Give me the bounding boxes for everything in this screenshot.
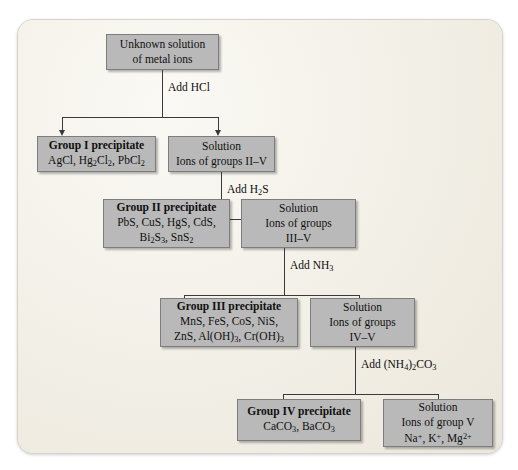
diagram-panel: Unknown solution of metal ions Add HCl G…: [17, 19, 503, 454]
group-2-header: Group II precipitate: [117, 200, 217, 215]
node-group-2-precipitate: Group II precipitate PbS, CuS, HgS, CdS,…: [103, 199, 230, 248]
solution-3-5-line-2: Ions of groups: [265, 216, 331, 231]
solution-5-line-2: Ions of group V: [402, 415, 475, 430]
solution-5-line-3: Na+, K+, Mg2+: [404, 431, 471, 446]
node-group-4-precipitate: Group IV precipitate CaCO3, BaCO3: [237, 399, 361, 441]
node-group-1-precipitate: Group I precipitate AgCl, Hg2Cl2, PbCl2: [37, 136, 156, 172]
reagent-step-1: Add HCl: [168, 82, 210, 94]
group-2-species-line-1: PbS, CuS, HgS, CdS,: [117, 215, 216, 230]
group-1-species: AgCl, Hg2Cl2, PbCl2: [48, 153, 145, 170]
connector-sol35-down: [284, 248, 285, 295]
node-solution-3-5: Solution Ions of groups III–V: [241, 199, 356, 248]
group-1-header: Group I precipitate: [49, 138, 144, 153]
group-4-species: CaCO3, BaCO3: [263, 419, 335, 436]
node-solution-2-5: Solution Ions of groups II–V: [168, 136, 275, 172]
diagram-root: Unknown solution of metal ions Add HCl G…: [0, 0, 518, 470]
group-3-species-line-2: ZnS, Al(OH)3, Cr(OH)3: [174, 329, 284, 346]
node-solution-4-5: Solution Ions of groups IV–V: [310, 298, 415, 347]
group-2-species-line-2: Bi2S3, SnS2: [140, 230, 194, 247]
node-group-3-precipitate: Group III precipitate MnS, FeS, CoS, NiS…: [160, 298, 298, 347]
node-solution-5: Solution Ions of group V Na+, K+, Mg2+: [383, 399, 493, 447]
start-line-2: of metal ions: [132, 52, 192, 67]
solution-4-5-line-2: Ions of groups: [329, 315, 395, 330]
connector-start-down: [162, 70, 163, 117]
group-3-header: Group III precipitate: [177, 299, 281, 314]
solution-2-5-line-2: Ions of groups II–V: [176, 154, 267, 169]
solution-3-5-line-3: III–V: [286, 231, 312, 246]
solution-4-5-line-3: IV–V: [349, 330, 375, 345]
connector-split-1: [62, 117, 218, 118]
solution-4-5-line-1: Solution: [343, 300, 382, 315]
start-line-1: Unknown solution: [120, 37, 205, 52]
connector-sol45-down: [355, 347, 356, 394]
connector-split-3: [184, 295, 359, 296]
solution-2-5-line-1: Solution: [202, 139, 241, 154]
node-start: Unknown solution of metal ions: [106, 34, 219, 70]
group-3-species-line-1: MnS, FeS, CoS, NiS,: [180, 314, 278, 329]
reagent-step-3: Add NH3: [290, 260, 333, 273]
reagent-step-4: Add (NH4)2CO3: [361, 359, 436, 372]
solution-5-line-1: Solution: [419, 400, 458, 415]
reagent-step-2: Add H2S: [227, 184, 269, 197]
group-4-header: Group IV precipitate: [247, 404, 351, 419]
connector-split-4: [283, 394, 438, 395]
solution-3-5-line-1: Solution: [279, 201, 318, 216]
